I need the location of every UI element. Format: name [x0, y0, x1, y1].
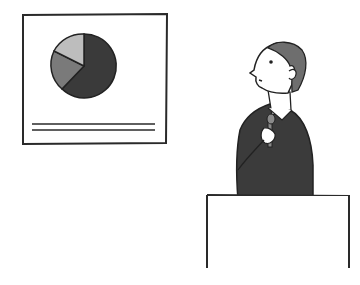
microphone-head — [267, 114, 275, 124]
eye — [269, 60, 273, 64]
illustration — [0, 0, 360, 285]
presentation-board — [23, 14, 167, 144]
pie-chart — [51, 34, 116, 98]
podium — [207, 195, 349, 268]
presenter — [237, 42, 313, 200]
mouth — [259, 80, 262, 81]
ear — [289, 69, 296, 79]
